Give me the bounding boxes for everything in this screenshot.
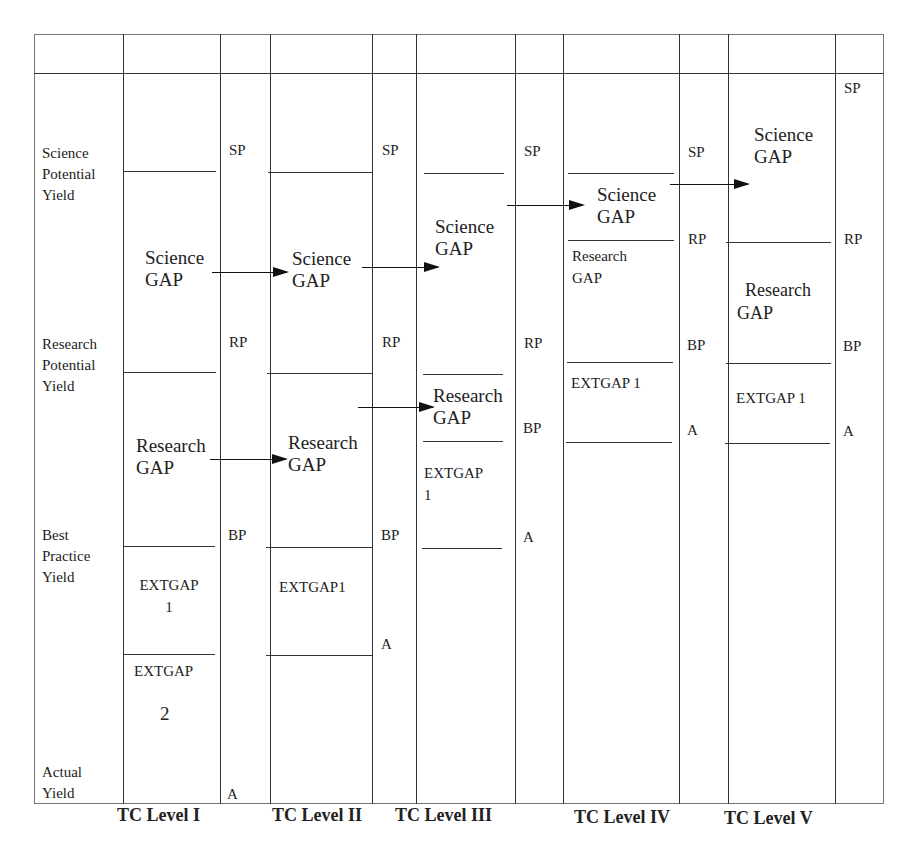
level4-marker-rp: RP — [688, 231, 706, 248]
arrow-science-gap-3-to-4 — [507, 205, 583, 206]
arrow-research-gap-2-to-3 — [358, 407, 433, 408]
level4-rp-line — [568, 240, 674, 241]
column-divider — [270, 34, 271, 804]
level1-marker-rp: RP — [229, 334, 247, 351]
level1-ext-line — [123, 654, 215, 655]
level5-science-gap: Science GAP — [754, 124, 813, 168]
level4-ext-line — [566, 442, 672, 443]
level3-science-gap: Science GAP — [435, 216, 494, 260]
level4-marker-a: A — [687, 422, 698, 439]
level3-research-gap: Research GAP — [433, 385, 503, 429]
row-label-actual: Actual Yield — [42, 762, 82, 804]
arrow-science-gap-1-to-2 — [212, 272, 287, 273]
column-divider — [728, 34, 729, 804]
level1-marker-sp: SP — [229, 142, 246, 159]
row-label-best-practice: Best Practice Yield — [42, 525, 90, 588]
level3-sp-line — [424, 173, 504, 174]
arrow-research-gap-1-to-2 — [210, 459, 286, 460]
level4-marker-sp: SP — [688, 144, 705, 161]
level2-marker-sp: SP — [382, 142, 399, 159]
level1-marker-a: A — [227, 786, 238, 803]
level2-science-gap: Science GAP — [292, 248, 351, 292]
level1-extgap2-number: 2 — [160, 703, 170, 725]
level-label-2: TC Level II — [272, 805, 362, 826]
level1-bp-line — [123, 546, 215, 547]
level5-extgap1: EXTGAP 1 — [736, 387, 806, 409]
level5-rp-line — [726, 242, 831, 243]
level-label-1: TC Level I — [117, 805, 200, 826]
level1-science-gap: Science GAP — [145, 247, 204, 291]
column-divider — [416, 34, 417, 804]
column-divider — [563, 34, 564, 804]
level4-sp-line — [568, 173, 674, 174]
column-divider — [679, 34, 680, 804]
level-label-3: TC Level III — [395, 805, 492, 826]
level5-ext-line — [725, 443, 830, 444]
level5-marker-bp: BP — [843, 338, 861, 355]
level3-extgap1: EXTGAP 1 — [424, 462, 483, 506]
level2-marker-a: A — [381, 636, 392, 653]
level1-extgap2-label: EXTGAP — [134, 660, 193, 682]
level-label-4: TC Level IV — [574, 807, 670, 828]
arrow-science-gap-4-to-5 — [670, 184, 748, 185]
level5-bp-line — [726, 363, 831, 364]
level3-bp-line — [423, 441, 503, 442]
column-divider — [835, 34, 836, 804]
level5-marker-rp: RP — [844, 231, 862, 248]
level1-rp-line — [123, 372, 216, 373]
level1-research-gap: Research GAP — [136, 435, 206, 479]
level1-extgap1: EXTGAP 1 — [134, 574, 204, 618]
level2-ext-line — [266, 655, 372, 656]
level4-marker-bp: BP — [687, 337, 705, 354]
arrow-science-gap-2-to-3 — [362, 267, 438, 268]
level1-marker-bp: BP — [228, 527, 246, 544]
level3-marker-bp: BP — [523, 420, 541, 437]
column-divider — [515, 34, 516, 804]
level3-marker-rp: RP — [524, 335, 542, 352]
column-divider — [372, 34, 373, 804]
level2-research-gap: Research GAP — [288, 432, 358, 476]
level2-extgap1: EXTGAP1 — [279, 576, 346, 598]
level2-marker-bp: BP — [381, 527, 399, 544]
level5-research-gap-text: Research GAP — [737, 280, 811, 323]
row-label-science-potential: Science Potential Yield — [42, 143, 95, 206]
level1-sp-line — [123, 171, 216, 172]
header-divider — [34, 73, 884, 74]
level4-bp-line — [567, 362, 673, 363]
level2-rp-line — [267, 373, 372, 374]
level5-research-gap: Research GAP — [737, 257, 811, 325]
level3-marker-sp: SP — [524, 143, 541, 160]
level2-marker-rp: RP — [382, 334, 400, 351]
level4-research-gap: Research GAP — [572, 245, 627, 289]
column-divider — [220, 34, 221, 804]
level4-extgap1: EXTGAP 1 — [571, 372, 641, 394]
level2-sp-line — [268, 172, 372, 173]
row-label-research-potential: Research Potential Yield — [42, 334, 97, 397]
level3-ext-line — [422, 548, 502, 549]
level5-marker-sp: SP — [844, 80, 861, 97]
column-divider — [123, 34, 124, 804]
level-label-5: TC Level V — [724, 808, 813, 829]
level4-science-gap: Science GAP — [597, 184, 656, 228]
level5-marker-a: A — [843, 423, 854, 440]
level2-bp-line — [266, 547, 372, 548]
level3-marker-a: A — [523, 529, 534, 546]
level3-rp-line — [423, 374, 503, 375]
